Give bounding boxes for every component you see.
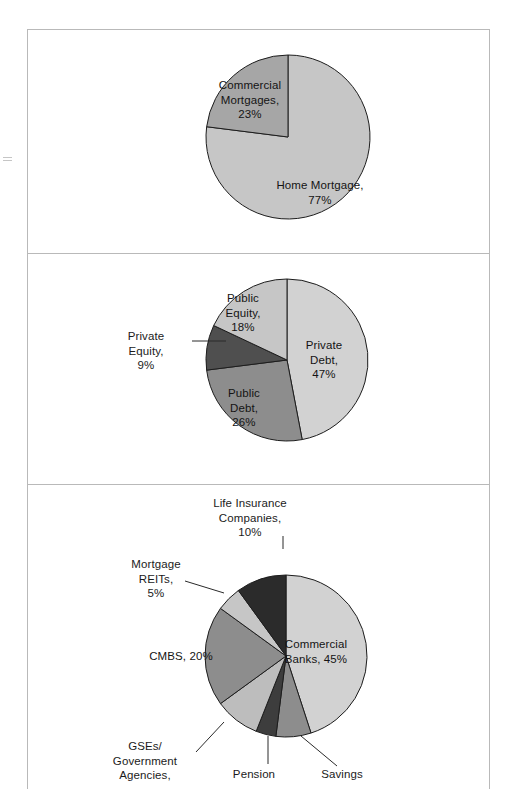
pie-label-leader-line bbox=[301, 736, 337, 766]
pie-slice-label: Public Debt, 26% bbox=[196, 386, 292, 430]
pie-slice-label: Commercial Mortgages, 23% bbox=[202, 78, 298, 122]
pie-slice-label: Life Insurance Companies, 10% bbox=[202, 496, 298, 540]
figure-frame: Home Mortgage, 77%Commercial Mortgages, … bbox=[27, 29, 490, 789]
pie-slice-label: CMBS, 20% bbox=[133, 649, 229, 664]
pie-slice-label: Savings bbox=[294, 767, 390, 782]
pie-slice-label: GSEs/ Government Agencies, bbox=[97, 739, 193, 783]
pie-slice-label: Home Mortgage, 77% bbox=[272, 178, 368, 207]
pie-chart-home-mortgage bbox=[28, 30, 491, 253]
pie-slice-label: Mortgage REITs, 5% bbox=[108, 557, 204, 601]
pie-slice-label: Public Equity, 18% bbox=[195, 291, 291, 335]
pie-slice-label: Pension bbox=[206, 767, 302, 782]
scan-artifact bbox=[3, 157, 12, 164]
pie-label-leader-line bbox=[196, 722, 224, 752]
chart-panel-capital-markets: Private Debt, 47%Public Debt, 26%Private… bbox=[28, 253, 489, 484]
chart-panel-home-mortgage: Home Mortgage, 77%Commercial Mortgages, … bbox=[28, 30, 489, 253]
pie-slice-label: Commercial Banks, 45% bbox=[268, 637, 364, 666]
pie-slice-label: Private Debt, 47% bbox=[276, 338, 372, 382]
pie-slice-label: Private Equity, 9% bbox=[98, 329, 194, 373]
chart-panel-commercial-debt: Commercial Banks, 45%SavingsPensionGSEs/… bbox=[28, 484, 489, 790]
